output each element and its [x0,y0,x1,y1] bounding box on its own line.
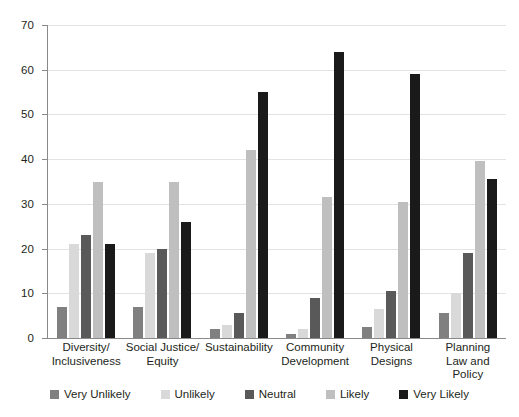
y-tick-label: 10 [21,287,34,299]
legend-label: Likely [340,388,369,400]
bar [169,182,179,339]
y-tick-mark [42,338,47,339]
x-tick-label-line: Community [278,341,352,355]
bar [487,179,497,338]
bar [246,150,256,338]
legend-swatch-icon [245,390,254,399]
grouped-bar-chart: 010203040506070 Diversity/InclusivenessS… [0,0,519,417]
bar-group [201,25,277,338]
bar [234,313,244,338]
legend-swatch-icon [326,390,335,399]
x-tick-label: CommunityDevelopment [277,341,353,382]
y-tick-mark [42,114,47,115]
y-tick-mark [42,204,47,205]
bar [298,329,308,338]
bar [81,235,91,338]
y-tick-label: 50 [21,108,34,120]
y-axis: 010203040506070 [0,0,42,345]
x-tick-label-line: Sustainability [202,341,276,355]
legend-label: Unlikely [175,388,215,400]
bar [157,249,167,338]
y-tick-mark [42,159,47,160]
x-tick-label: PhysicalDesigns [353,341,429,382]
x-tick-label-line: Development [278,355,352,369]
x-tick-label: Diversity/Inclusiveness [48,341,124,382]
legend-swatch-icon [161,390,170,399]
bar [222,325,232,338]
legend-item[interactable]: Likely [326,388,369,400]
x-tick-label-line: Physical [354,341,428,355]
x-tick-label-line: Designs [354,355,428,369]
y-tick-label: 40 [21,153,34,165]
x-tick-label: Social Justice/Equity [124,341,200,382]
bar [210,329,220,338]
bar [258,92,268,338]
x-tick-label-line: Planning [431,341,505,355]
y-tick-label: 60 [21,64,34,76]
x-tick-label: Sustainability [201,341,277,382]
x-axis-line [47,338,506,339]
bar-group [430,25,506,338]
legend-item[interactable]: Unlikely [161,388,215,400]
bar [475,161,485,338]
bar [181,222,191,338]
legend-swatch-icon [50,390,59,399]
bar [57,307,67,338]
y-tick-label: 70 [21,19,34,31]
bar [463,253,473,338]
bar-group [353,25,429,338]
bar-groups [48,25,506,338]
bar-group [124,25,200,338]
bar [133,307,143,338]
legend-label: Very Unlikely [64,388,130,400]
bar [93,182,103,339]
bar-group [48,25,124,338]
bar [334,52,344,338]
bar [69,244,79,338]
x-tick-label-line: Diversity/ [49,341,123,355]
legend-label: Very Likely [413,388,469,400]
x-tick-label-line: Inclusiveness [49,355,123,369]
x-tick-label: PlanningLaw andPolicy [430,341,506,382]
legend-item[interactable]: Very Likely [399,388,469,400]
x-tick-label-line: Equity [125,355,199,369]
bar [398,202,408,338]
y-tick-mark [42,25,47,26]
bar [105,244,115,338]
bar [386,291,396,338]
legend-label: Neutral [259,388,296,400]
plot-area: 010203040506070 [0,0,519,345]
x-axis-category-labels: Diversity/InclusivenessSocial Justice/Eq… [48,341,506,382]
x-tick-label-line: Policy [431,368,505,382]
chart-legend: Very UnlikelyUnlikelyNeutralLikelyVery L… [0,388,519,400]
x-tick-label-line: Social Justice/ [125,341,199,355]
bar [322,197,332,338]
bar [451,293,461,338]
bar [145,253,155,338]
legend-item[interactable]: Very Unlikely [50,388,130,400]
bar [362,327,372,338]
bar [439,313,449,338]
x-tick-label-line: Law and [431,355,505,369]
y-tick-mark [42,249,47,250]
y-tick-label: 30 [21,198,34,210]
legend-swatch-icon [399,390,408,399]
bar [286,334,296,338]
y-tick-mark [42,70,47,71]
legend-item[interactable]: Neutral [245,388,296,400]
bar-group [277,25,353,338]
bar [374,309,384,338]
y-tick-mark [42,293,47,294]
bar [410,74,420,338]
bar [310,298,320,338]
y-tick-label: 20 [21,243,34,255]
y-tick-label: 0 [28,332,35,344]
